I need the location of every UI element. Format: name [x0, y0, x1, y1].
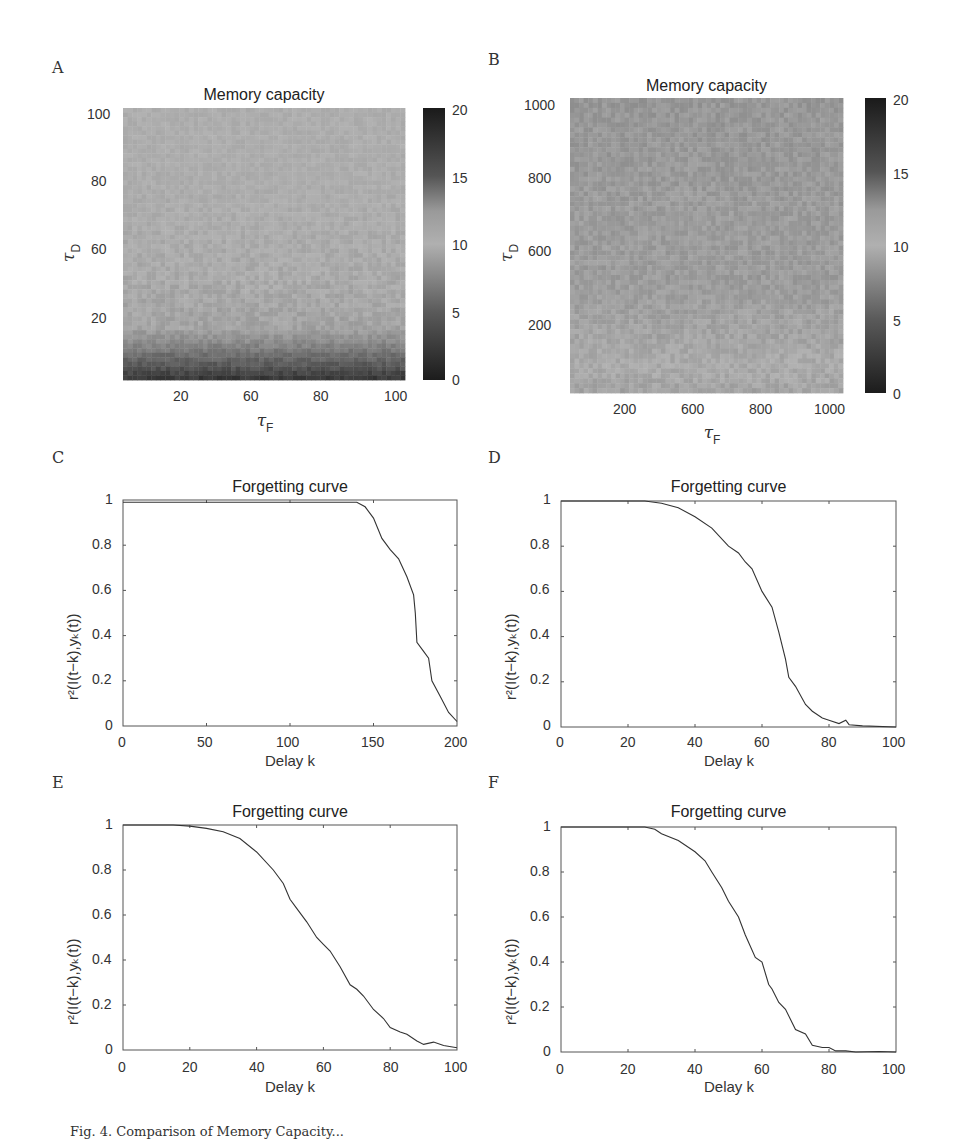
plot-frame-d: [561, 501, 896, 727]
heatmap-a: [123, 108, 405, 380]
plot-canvas: [0, 0, 959, 1142]
forgetting-curve-d: [561, 501, 896, 727]
colorbar-a: [423, 108, 445, 380]
plot-frame-f: [561, 827, 896, 1052]
forgetting-curve-c: [123, 502, 457, 721]
forgetting-curve-f: [561, 827, 896, 1052]
plot-frame-c: [123, 500, 457, 726]
forgetting-curves: [123, 500, 896, 1052]
forgetting-curve-e: [123, 825, 457, 1048]
colorbar-b: [865, 98, 886, 393]
heatmap-b: [570, 98, 843, 393]
plot-frame-e: [123, 825, 457, 1050]
